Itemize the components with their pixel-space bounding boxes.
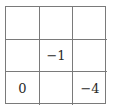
cell-r3-c1: 0 [6, 72, 40, 105]
cell-r3-c3: −4 [73, 72, 107, 105]
cell-r1-c3 [73, 7, 107, 40]
cell-r2-c3 [73, 40, 107, 72]
cell-r2-c1 [6, 40, 40, 72]
cell-r3-c2 [40, 72, 73, 105]
cell-r1-c1 [6, 7, 40, 40]
value-grid: −1 0 −4 [5, 6, 106, 104]
cell-r1-c2 [40, 7, 73, 40]
cell-r2-c2: −1 [40, 40, 73, 72]
